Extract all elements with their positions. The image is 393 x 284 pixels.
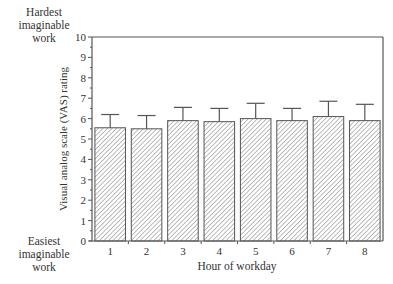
bar-hour-2 (131, 129, 162, 241)
y-tick-label: 8 (81, 72, 87, 84)
y-axis: 012345678910 (75, 31, 92, 247)
x-tick-label: 5 (253, 245, 259, 257)
x-axis-label: Hour of workday (197, 260, 276, 273)
y-tick-label: 10 (75, 31, 87, 43)
y-tick-label: 9 (81, 51, 87, 63)
y-tick-label: 0 (81, 235, 87, 247)
bar-chart: 012345678910 12345678 Visual analog scal… (0, 0, 393, 284)
x-tick-label: 2 (144, 245, 150, 257)
x-tick-label: 1 (107, 245, 113, 257)
bar-hour-6 (277, 121, 308, 241)
y-tick-label: 2 (81, 194, 87, 206)
bar-hour-8 (350, 121, 381, 241)
bar-hour-1 (95, 128, 126, 241)
bar-hour-7 (313, 117, 344, 241)
bar-hour-5 (240, 119, 271, 241)
bar-hour-4 (204, 122, 235, 241)
x-axis: 12345678 (107, 241, 368, 257)
y-tick-label: 3 (81, 174, 87, 186)
x-tick-label: 6 (289, 245, 295, 257)
y-tick-label: 6 (81, 113, 87, 125)
y-tick-label: 4 (81, 153, 87, 165)
x-tick-label: 7 (326, 245, 332, 257)
x-tick-label: 4 (217, 245, 223, 257)
y-tick-label: 7 (81, 92, 87, 104)
y-tick-label: 1 (81, 215, 87, 227)
x-tick-label: 8 (362, 245, 368, 257)
y-tick-label: 5 (81, 133, 87, 145)
x-tick-label: 3 (180, 245, 186, 257)
bars-group (95, 101, 380, 241)
bar-hour-3 (168, 121, 199, 241)
y-axis-label: Visual analog scale (VAS) rating (57, 67, 70, 211)
